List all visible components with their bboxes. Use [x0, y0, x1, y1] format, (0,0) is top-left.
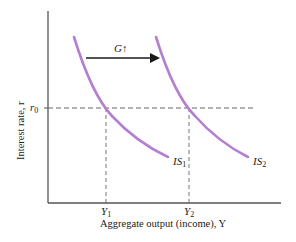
y2-label: Y2 — [184, 205, 194, 219]
y-axis-title: Interest rate, r — [15, 101, 26, 160]
is1-label: IS1 — [172, 155, 186, 169]
is2-curve — [156, 37, 248, 157]
shift-label: G↑ — [114, 42, 127, 54]
y1-label: Y1 — [101, 205, 111, 219]
x-axis-title: Aggregate output (income), Y — [100, 218, 227, 230]
is2-label: IS2 — [252, 155, 266, 169]
shift-arrow-head-icon — [150, 53, 160, 63]
is-curve-diagram: G↑ r0 Y1 Y2 IS1 IS2 Aggregate output (in… — [0, 0, 296, 242]
r0-label: r0 — [30, 101, 38, 115]
